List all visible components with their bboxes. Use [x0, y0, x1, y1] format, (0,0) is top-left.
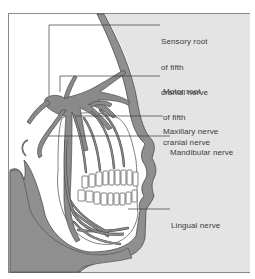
label-line: Motor root: [163, 88, 210, 97]
label-line: Lingual nerve: [171, 222, 220, 231]
label-line: Mandibular nerve: [170, 149, 233, 158]
label-line: Sensory root: [161, 38, 208, 47]
label-mandibular-nerve: Mandibular nerve: [170, 132, 233, 166]
label-lingual-nerve: Lingual nerve: [171, 205, 220, 239]
